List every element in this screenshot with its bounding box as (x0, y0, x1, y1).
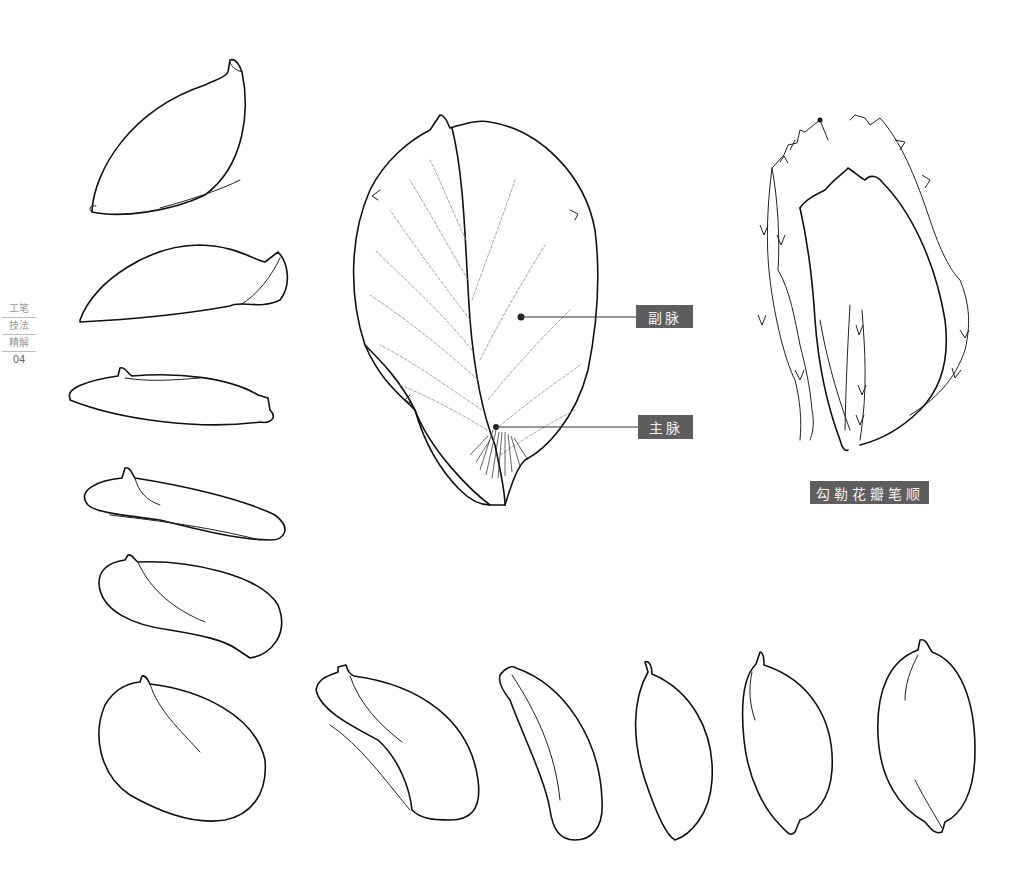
petal-drawing-left-1 (90, 60, 245, 215)
main-vein-pointer (493, 424, 638, 430)
main-vein-label: 主脉 (638, 415, 693, 439)
petal-illustrations (0, 0, 1017, 886)
petal-drawing-bottom-2 (499, 667, 602, 840)
petal-drawing-bottom-4 (743, 652, 833, 834)
secondary-vein-pointer (518, 314, 637, 321)
petal-drawing-left-2 (80, 245, 287, 322)
petal-drawing-bottom-1 (316, 665, 479, 820)
petal-drawing-left-3 (69, 368, 273, 425)
petal-vein-diagram (354, 115, 598, 505)
stroke-order-caption: 勾勒花瓣笔顺 (810, 481, 929, 504)
stroke-order-diagram (758, 115, 969, 451)
secondary-vein-label: 副脉 (636, 305, 693, 328)
petal-drawing-bottom-3 (636, 662, 713, 840)
petal-drawing-left-5 (99, 555, 282, 658)
petal-drawing-bottom-5 (878, 640, 975, 833)
petal-drawing-left-6 (99, 676, 265, 821)
petal-drawing-left-4 (84, 468, 284, 540)
